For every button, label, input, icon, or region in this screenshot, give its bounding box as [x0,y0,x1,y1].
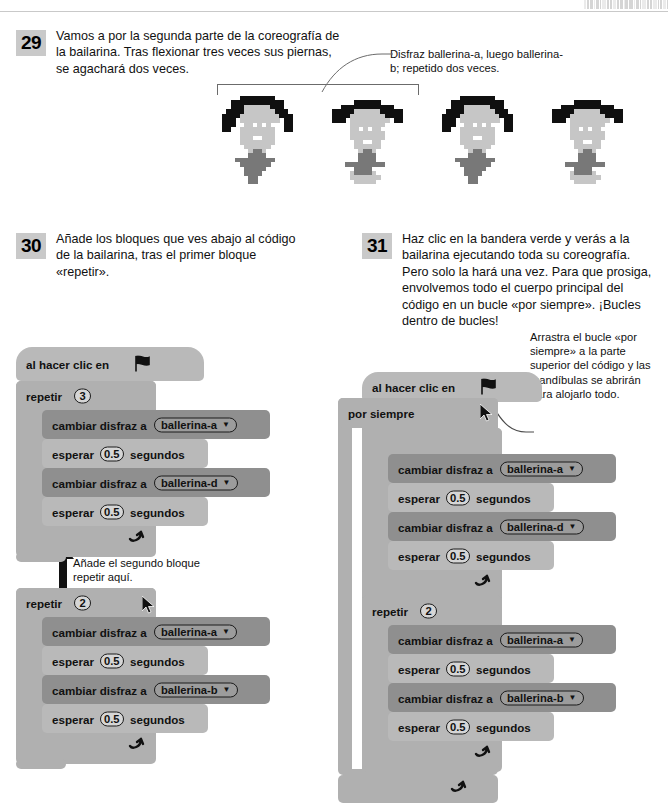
repeat-block-header[interactable]: repetir3 [16,381,156,410]
barcode-bar [613,0,617,9]
repeat2-block-tail[interactable] [16,759,66,769]
left1-block-1-value[interactable]: 0.5 [100,446,124,461]
mouse-cursor-icon [142,596,155,614]
left2-block-2-dropdown[interactable]: ballerina-b▼ [154,682,238,697]
forever-mouth-gap [352,428,362,769]
right1-block-1-label: esperar [398,491,440,504]
when-flag-clicked-block[interactable]: al hacer clic en [16,347,204,381]
left1-block-0[interactable]: cambiar disfraz aballerina-a▼ [42,410,270,439]
step-30-text: Añade los bloques que ves abajo al códig… [56,231,306,280]
sprite-pixel [486,162,491,167]
right2-block-2-dropdown-text: ballerina-b [507,692,564,704]
left2-block-0[interactable]: cambiar disfraz aballerina-a▼ [42,617,270,646]
right1-block-2[interactable]: cambiar disfraz aballerina-d▼ [388,512,616,541]
repeat2-count[interactable]: 2 [74,595,91,610]
right1-block-0[interactable]: cambiar disfraz aballerina-a▼ [388,454,616,483]
right1-block-1-value[interactable]: 0.5 [446,490,470,505]
left1-block-1[interactable]: esperar0.5segundos [42,439,208,468]
left1-block-3[interactable]: esperar0.5segundos [42,497,208,526]
barcode-bar [629,0,633,9]
barcode-bar [653,0,657,9]
right2-block-1-value[interactable]: 0.5 [446,661,470,676]
right1-block-3-value[interactable]: 0.5 [446,548,470,563]
inner-repeat2-count[interactable]: 2 [420,603,437,618]
sprite-pixel [376,144,381,149]
repeat2-block-footer[interactable] [16,733,156,759]
inner-repeat1-footer[interactable] [362,570,502,596]
repeat2-block-header[interactable]: repetir2 [16,588,156,617]
loop-arrow-icon [474,574,492,592]
right2-block-1-value-text: 0.5 [450,663,466,675]
left2-block-1[interactable]: esperar0.5segundos [42,646,208,675]
right1-block-3-suffix: segundos [476,549,531,562]
sprite-pixel [372,180,377,185]
chevron-down-icon: ▼ [223,686,231,694]
repeat-count[interactable]: 3 [74,388,91,403]
left2-block-1-value[interactable]: 0.5 [100,653,124,668]
left1-block-3-value[interactable]: 0.5 [100,504,124,519]
barcode-bar [636,0,639,9]
ballerina-sprite [222,96,292,184]
repeat-label: repetir [26,389,62,402]
left2-block-3-value[interactable]: 0.5 [100,711,124,726]
sprite-pixel [596,175,601,180]
right2-block-0-dropdown-text: ballerina-a [507,634,563,646]
sprite-pixel [257,171,262,176]
right2-block-3-suffix: segundos [476,720,531,733]
inner-repeat2-header[interactable]: repetir2 [362,596,502,625]
callout-costume: Disfraz ballerina-a, luego ballerina-b; … [390,47,570,75]
right1-block-1[interactable]: esperar0.5segundos [388,483,554,512]
inner-repeat2-footer[interactable] [362,741,502,767]
loop-arrow-icon [128,737,146,755]
sprite-pixel [473,180,478,185]
barcode-bar [640,0,641,9]
sprite-pixel [605,118,610,123]
forever-block-header[interactable]: por siempre [338,398,498,428]
barcode-bar [594,0,595,9]
sprite-pixel [262,166,267,171]
right2-block-3[interactable]: esperar0.5segundos [388,712,554,741]
chevron-down-icon: ▼ [568,636,576,644]
right1-block-3[interactable]: esperar0.5segundos [388,541,554,570]
chevron-down-icon: ▼ [569,694,577,702]
right2-block-0-label: cambiar disfraz a [398,633,493,646]
inner-repeat1-header[interactable] [362,428,502,454]
right2-block-0-dropdown[interactable]: ballerina-a▼ [500,632,583,647]
top-divider [0,11,668,12]
right1-block-2-dropdown[interactable]: ballerina-d▼ [500,519,584,534]
sprite-pixel [385,118,390,123]
right2-block-3-label: esperar [398,720,440,733]
right1-block-1-value-text: 0.5 [450,492,466,504]
left2-block-3[interactable]: esperar0.5segundos [42,704,208,733]
repeat-count-text: 3 [79,390,85,402]
sprite-pixel [266,162,271,167]
repeat-block-tail[interactable] [16,552,66,562]
right2-block-3-value[interactable]: 0.5 [446,719,470,734]
right1-block-0-dropdown[interactable]: ballerina-a▼ [500,461,583,476]
inner-repeat2-label: repetir [372,604,408,617]
right2-block-0[interactable]: cambiar disfraz aballerina-a▼ [388,625,616,654]
left2-block-1-label: esperar [52,654,94,667]
sprite-pixel [380,162,385,167]
left1-block-0-dropdown[interactable]: ballerina-a▼ [154,417,237,432]
left1-block-0-dropdown-text: ballerina-a [161,419,217,431]
sprite-pixel [376,175,381,180]
left2-block-2[interactable]: cambiar disfraz aballerina-b▼ [42,675,270,704]
right2-block-2[interactable]: cambiar disfraz aballerina-b▼ [388,683,616,712]
right2-block-1[interactable]: esperar0.5segundos [388,654,554,683]
left1-block-2[interactable]: cambiar disfraz aballerina-d▼ [42,468,270,497]
loop-arrow-icon [450,780,468,798]
left1-block-2-dropdown[interactable]: ballerina-d▼ [154,475,238,490]
right1-block-3-label: esperar [398,549,440,562]
barcode-bar [607,0,608,9]
sprite-pixel [341,118,346,123]
right2-block-2-dropdown[interactable]: ballerina-b▼ [500,690,584,705]
sprite-pixel [618,118,623,123]
barcode-bar [658,0,659,9]
forever-block-footer[interactable] [338,775,498,803]
left2-block-0-dropdown[interactable]: ballerina-a▼ [154,624,237,639]
right1-block-1-suffix: segundos [476,491,531,504]
repeat-block-footer[interactable] [16,526,156,552]
barcode-bar [625,0,627,9]
sprite-pixel [561,118,566,123]
